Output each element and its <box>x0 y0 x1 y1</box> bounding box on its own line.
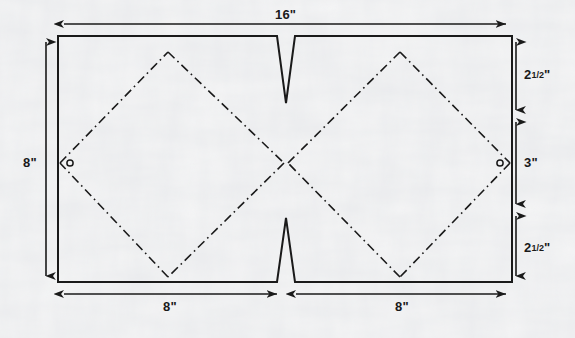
fold-line-left-diamond-lower-right <box>168 163 284 277</box>
fold-line-right-diamond-upper-left <box>288 52 400 163</box>
dimension-label-right-middle: 3" <box>524 156 538 169</box>
fold-line-left-diamond-upper-right <box>168 52 284 163</box>
fold-line-left-diamond-upper-left <box>60 52 168 163</box>
dimension-label-right-bottom-whole: 2 <box>524 240 531 255</box>
dimension-label-right-bottom-unit: " <box>544 240 550 255</box>
dimension-label-bottom-right: 8" <box>395 300 409 313</box>
cut-rectangle-outline <box>58 36 512 282</box>
diagram-canvas: 16" 8" 8" 8" 21/2" 3" 21/2" <box>0 0 575 338</box>
dimension-label-right-top-whole: 2 <box>524 67 531 82</box>
dimension-label-right-bottom: 21/2" <box>524 241 550 254</box>
dimension-label-right-top-unit: " <box>544 67 550 82</box>
left-hole-marker <box>67 160 73 166</box>
diamond-fold-lines <box>60 52 510 277</box>
dimension-label-right-top-fraction: 1/2 <box>531 71 544 80</box>
dimension-label-left: 8" <box>23 156 37 169</box>
dimension-label-bottom-left: 8" <box>163 300 177 313</box>
fold-line-right-diamond-upper-right <box>400 52 510 163</box>
right-hole-marker <box>497 160 503 166</box>
fold-line-right-diamond-lower-left <box>288 163 400 277</box>
dimension-label-top: 16" <box>275 8 296 21</box>
dimension-label-right-bottom-fraction: 1/2 <box>531 244 544 253</box>
dimension-label-right-top: 21/2" <box>524 68 550 81</box>
fold-line-left-diamond-lower-left <box>60 163 168 277</box>
fold-line-right-diamond-lower-right <box>400 163 510 277</box>
